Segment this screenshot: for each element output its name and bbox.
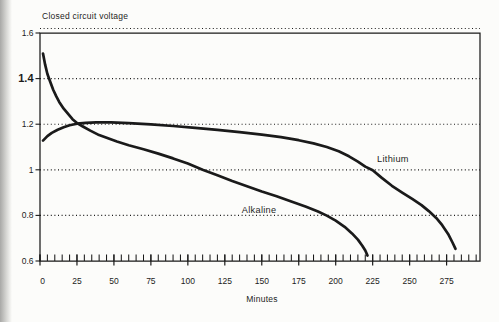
curve-alkaline bbox=[43, 54, 368, 256]
x-tick-label-200: 200 bbox=[329, 276, 343, 286]
y-tick-label-1.2: 1.2 bbox=[22, 119, 34, 129]
x-tick-label-275: 275 bbox=[439, 276, 453, 286]
x-tick-label-75: 75 bbox=[146, 276, 156, 286]
y-tick-label-1.6: 1.6 bbox=[22, 28, 34, 38]
x-tick-label-250: 250 bbox=[403, 276, 417, 286]
x-tick-label-125: 125 bbox=[218, 276, 232, 286]
x-tick-label-175: 175 bbox=[292, 276, 306, 286]
x-axis-title: Minutes bbox=[222, 294, 302, 304]
x-tick-label-25: 25 bbox=[72, 276, 82, 286]
scanned-page: 1.61.41.210.80.6025507510012515017520022… bbox=[0, 0, 499, 322]
x-tick-label-225: 225 bbox=[366, 276, 380, 286]
y-tick-label-0.8: 0.8 bbox=[22, 210, 34, 220]
x-tick-label-0: 0 bbox=[40, 276, 45, 286]
chart-title: Closed circuit voltage bbox=[42, 11, 128, 21]
y-tick-label-0.6: 0.6 bbox=[22, 256, 34, 266]
x-tick-label-150: 150 bbox=[255, 276, 269, 286]
series-label-alkaline: Alkaline bbox=[242, 205, 277, 215]
series-label-lithium: Lithium bbox=[377, 154, 409, 164]
y-tick-label-1: 1 bbox=[29, 165, 34, 175]
plot-frame bbox=[40, 33, 480, 261]
x-tick-label-50: 50 bbox=[109, 276, 119, 286]
x-tick-label-100: 100 bbox=[181, 276, 195, 286]
y-tick-label-1.4: 1.4 bbox=[18, 72, 34, 84]
battery-discharge-chart: 1.61.41.210.80.6025507510012515017520022… bbox=[0, 0, 499, 322]
